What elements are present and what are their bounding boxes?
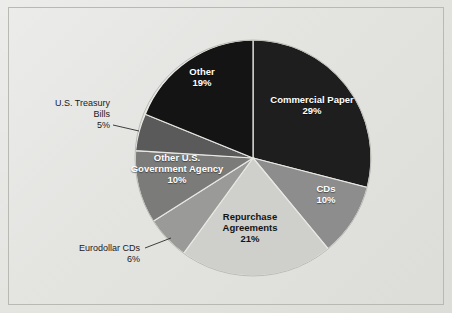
pie-chart-figure: Commercial Paper 29% CDs 10% Repurchase … xyxy=(0,0,452,313)
leader-line-eurodollar-cds xyxy=(145,238,171,248)
leader-line-treasury-bills xyxy=(113,125,139,131)
pie-chart-canvas xyxy=(0,0,452,313)
pie-slices xyxy=(135,40,371,276)
